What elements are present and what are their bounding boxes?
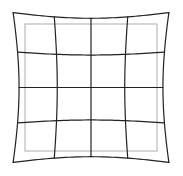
grid-line-horizontal-4	[13, 157, 169, 163]
grid-line-vertical-4	[163, 13, 169, 163]
grid-line-vertical-0	[13, 13, 19, 163]
distorted-grid-svg	[0, 0, 183, 176]
grid-line-horizontal-0	[13, 13, 169, 19]
pincushion-distortion-diagram	[0, 0, 183, 176]
